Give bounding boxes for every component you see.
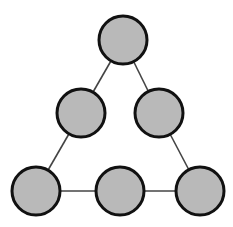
triangle-node-graph [0, 0, 233, 227]
node-top [99, 16, 147, 64]
nodes-layer [12, 16, 224, 215]
node-middle-right [135, 89, 183, 137]
node-bottom-middle [96, 167, 144, 215]
node-bottom-right [176, 167, 224, 215]
node-middle-left [57, 89, 105, 137]
node-bottom-left [12, 167, 60, 215]
